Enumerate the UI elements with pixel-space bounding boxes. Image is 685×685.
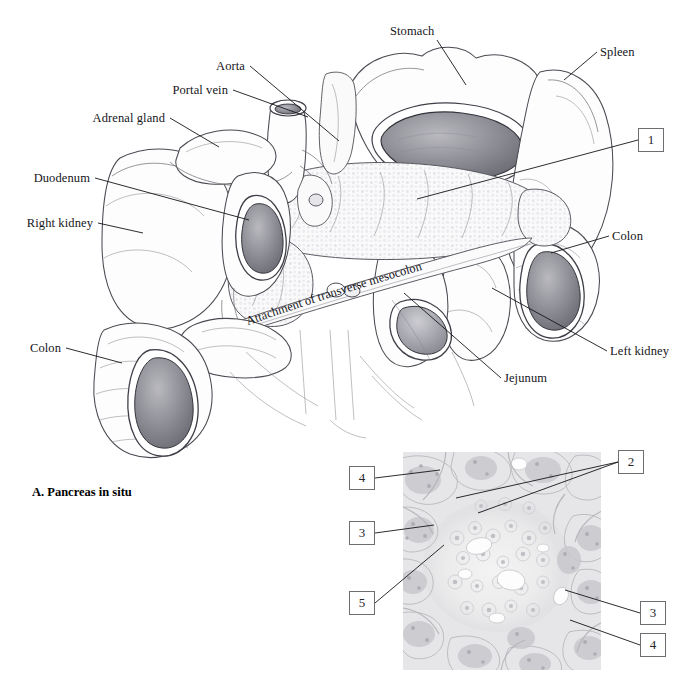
- leader-line-callout-4-topleft: [375, 470, 440, 478]
- callout-2[interactable]: 2: [618, 450, 644, 474]
- figure-page: Attachment of transverse mesocolon Stoma…: [0, 0, 685, 685]
- pancreas-in-situ-illustration: Attachment of transverse mesocolon: [0, 0, 685, 685]
- leader-line-callout-5: [375, 545, 444, 603]
- callout-3-left[interactable]: 3: [349, 521, 375, 545]
- label-jejunum: Jejunum: [504, 371, 547, 386]
- label-aorta: Aorta: [216, 59, 245, 74]
- leader-line-callout-3-left: [375, 525, 434, 533]
- label-colon-right: Colon: [30, 341, 61, 356]
- label-colon-left: Colon: [612, 229, 643, 244]
- callout-1[interactable]: 1: [638, 128, 664, 152]
- leader-line-callout-2b: [478, 462, 618, 513]
- label-right-kidney: Right kidney: [27, 216, 93, 231]
- leader-line-callout-3-right: [565, 590, 640, 613]
- callout-4-bottomright[interactable]: 4: [640, 633, 666, 657]
- leader-line-spleen: [564, 52, 597, 80]
- label-duodenum: Duodenum: [34, 171, 90, 186]
- label-spleen: Spleen: [600, 45, 635, 60]
- label-portal-vein: Portal vein: [172, 83, 228, 98]
- leader-line-callout-4-bottomright: [570, 620, 640, 645]
- label-stomach: Stomach: [390, 24, 434, 39]
- label-adrenal-gland: Adrenal gland: [93, 111, 165, 126]
- leader-line-callout-2: [456, 462, 618, 498]
- label-left-kidney: Left kidney: [610, 344, 669, 359]
- callout-3-right[interactable]: 3: [640, 601, 666, 625]
- callout-5[interactable]: 5: [349, 591, 375, 615]
- callout-4-topleft[interactable]: 4: [349, 466, 375, 490]
- panel-a-caption: A. Pancreas in situ: [32, 485, 132, 500]
